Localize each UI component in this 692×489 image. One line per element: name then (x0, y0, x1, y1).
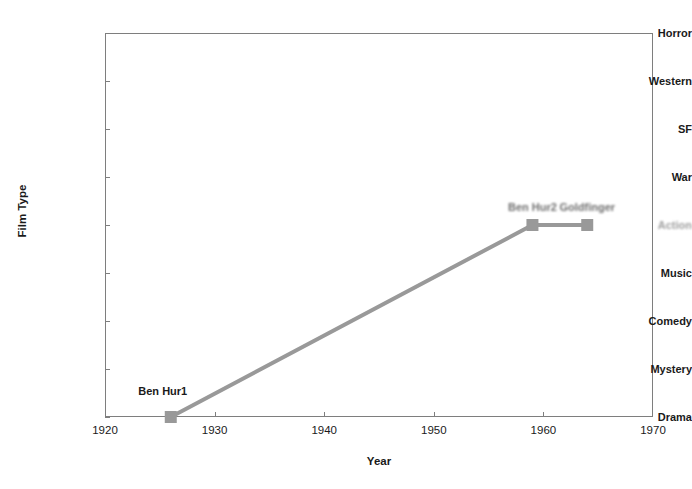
y-tick-mark (105, 81, 110, 82)
y-tick-mark (105, 273, 110, 274)
y-tick-mark (105, 129, 110, 130)
x-tick-mark (434, 412, 435, 417)
x-tick-mark (215, 412, 216, 417)
y-tick-mark (105, 33, 110, 34)
y-tick-label-action: Action (597, 219, 692, 231)
y-axis-title: Film Type (16, 171, 28, 251)
y-tick-mark (105, 417, 110, 418)
x-tick-mark (324, 412, 325, 417)
y-tick-label-drama: Drama (597, 411, 692, 423)
point-label-ben-hur1: Ben Hur1 (138, 385, 187, 397)
y-tick-label-war: War (597, 171, 692, 183)
y-tick-label-western: Western (597, 75, 692, 87)
y-tick-mark (105, 369, 110, 370)
y-tick-label-comedy: Comedy (597, 315, 692, 327)
x-tick-label-1930: 1930 (185, 424, 245, 436)
x-tick-label-1920: 1920 (75, 424, 135, 436)
y-tick-mark (105, 321, 110, 322)
x-tick-mark (543, 412, 544, 417)
y-tick-label-mystery: Mystery (597, 363, 692, 375)
point-label-goldfinger: Goldfinger (559, 201, 615, 213)
y-tick-mark (105, 225, 110, 226)
x-axis-title: Year (105, 455, 653, 467)
y-tick-label-music: Music (597, 267, 692, 279)
x-tick-label-1960: 1960 (513, 424, 573, 436)
y-tick-mark (105, 177, 110, 178)
chart-figure: DramaMysteryComedyMusicActionWarSFWester… (0, 0, 692, 489)
plot-area (105, 33, 653, 417)
point-label-ben-hur2: Ben Hur2 (508, 201, 557, 213)
y-tick-label-horror: Horror (597, 27, 692, 39)
x-tick-label-1950: 1950 (404, 424, 464, 436)
x-tick-label-1940: 1940 (294, 424, 354, 436)
x-tick-label-1970: 1970 (623, 424, 683, 436)
y-tick-label-sf: SF (597, 123, 692, 135)
